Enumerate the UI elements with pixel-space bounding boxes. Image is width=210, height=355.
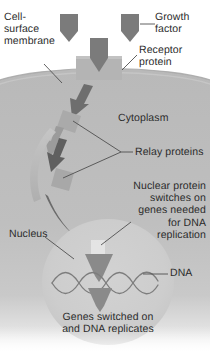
label-genes-switched-on: Genes switched on and DNA replicates xyxy=(33,311,183,335)
label-cell-surface-membrane: Cell- surface membrane xyxy=(4,11,55,48)
label-dna: DNA xyxy=(170,267,192,279)
nuclear-protein xyxy=(91,240,105,254)
label-nucleus: Nucleus xyxy=(9,228,48,240)
label-growth-factor: Growth factor xyxy=(155,11,189,35)
label-relay-proteins: Relay proteins xyxy=(135,146,204,158)
growth-factor-right xyxy=(121,14,139,42)
diagram-canvas: Cell- surface membrane Growth factor Rec… xyxy=(0,0,210,355)
label-cytoplasm: Cytoplasm xyxy=(118,112,169,124)
growth-factor-left xyxy=(60,14,78,42)
label-receptor-protein: Receptor protein xyxy=(139,44,182,68)
label-nuclear-protein: Nuclear protein switches on genes needed… xyxy=(96,180,206,241)
leader-receptor-protein xyxy=(122,55,137,70)
